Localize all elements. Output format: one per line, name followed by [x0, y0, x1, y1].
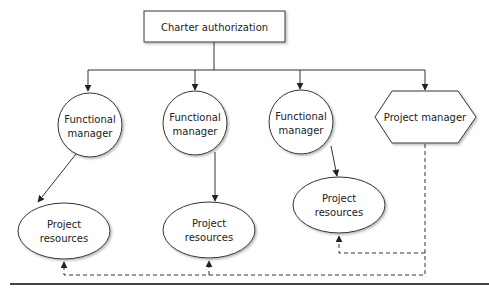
functional-manager-node-3: Functional manager [269, 90, 333, 154]
functional-manager-label-1a: Functional [64, 114, 115, 125]
diagram-canvas: Charter authorization Functional manager… [0, 0, 489, 291]
functional-manager-node-1: Functional manager [58, 93, 122, 157]
project-resources-node-2: Project resources [163, 202, 255, 258]
functional-manager-label-3b: manager [279, 125, 325, 136]
charter-authorization-label: Charter authorization [161, 22, 268, 33]
project-resources-label-3a: Project [322, 193, 356, 204]
project-manager-node: Project manager [375, 91, 476, 143]
functional-manager-label-1b: manager [68, 128, 114, 139]
functional-manager-node-2: Functional manager [163, 91, 227, 155]
project-manager-label: Project manager [384, 112, 467, 123]
functional-manager-label-3a: Functional [275, 111, 326, 122]
project-resources-label-2b: resources [185, 232, 233, 243]
project-resources-label-3b: resources [315, 207, 363, 218]
authorization-connectors [88, 42, 425, 91]
functional-manager-label-2a: Functional [169, 112, 220, 123]
functional-manager-label-2b: manager [173, 126, 219, 137]
project-resources-label-2a: Project [192, 218, 226, 229]
charter-authorization-node: Charter authorization [144, 11, 285, 42]
project-resources-label-1b: resources [40, 233, 88, 244]
project-resources-label-1a: Project [47, 219, 81, 230]
project-resources-node-1: Project resources [18, 203, 110, 259]
project-resources-node-3: Project resources [293, 177, 385, 233]
